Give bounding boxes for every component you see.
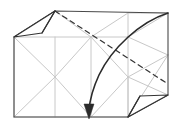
origami-figure [0, 0, 181, 132]
origami-diagram-canvas [0, 0, 181, 132]
